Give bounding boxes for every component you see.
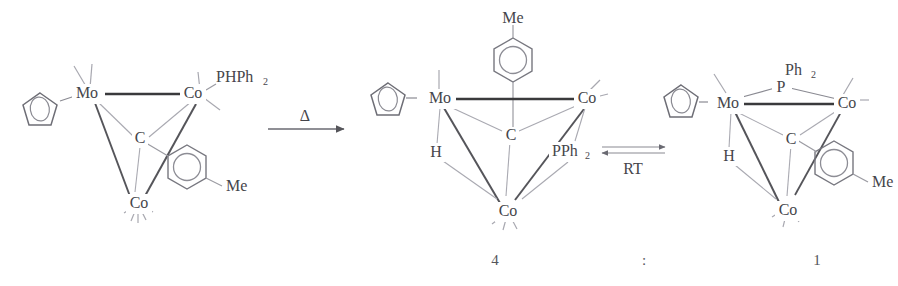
minor-hydride-label: H <box>723 147 735 164</box>
minor-phenyl-label: Ph <box>785 61 802 78</box>
reactant-co-bottom-label: Co <box>130 194 149 211</box>
major-phosphido-subscript: 2 <box>585 150 590 161</box>
reaction-scheme: Mo Co Co C PHPh 2 Me Δ <box>0 0 898 286</box>
ratio-left-value: 4 <box>491 252 499 268</box>
minor-phosphorus-label: P <box>777 78 786 95</box>
thermal-arrow-label: Δ <box>300 107 310 124</box>
equilibrium-arrow-label: RT <box>623 160 643 177</box>
reactant-methyl-label: Me <box>226 177 247 194</box>
major-hydride-label: H <box>430 143 442 160</box>
reactant-phosphine-subscript: 2 <box>263 76 268 87</box>
major-phosphido-label: PPh <box>552 142 578 159</box>
major-co-bottom-label: Co <box>499 202 518 219</box>
minor-mo-label: Mo <box>717 94 739 111</box>
ratio-right-value: 1 <box>813 252 821 268</box>
minor-phenyl-subscript: 2 <box>811 69 816 80</box>
reactant-co-right-label: Co <box>184 84 203 101</box>
major-mo-label: Mo <box>429 89 451 106</box>
minor-co-bottom-label: Co <box>779 201 798 218</box>
major-co-right-label: Co <box>578 89 597 106</box>
major-carbyne-label: C <box>506 126 517 143</box>
reactant-phosphine-label: PHPh <box>216 68 253 85</box>
minor-co-right-label: Co <box>838 94 857 111</box>
minor-methyl-label: Me <box>872 173 893 190</box>
reactant-mo-label: Mo <box>76 84 98 101</box>
reactant-carbyne-label: C <box>135 129 146 146</box>
ratio-separator: : <box>642 252 646 268</box>
minor-carbyne-label: C <box>786 130 797 147</box>
major-methyl-label: Me <box>502 9 523 26</box>
